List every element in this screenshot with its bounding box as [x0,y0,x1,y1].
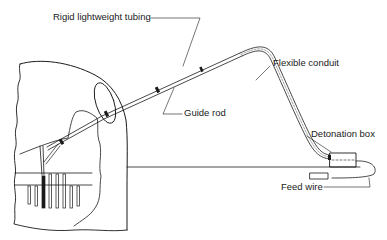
inner-cutaway [20,111,101,226]
fuel-rods [28,174,80,208]
label-flexible-conduit: Flexible conduit [273,58,339,68]
leader-lines [151,18,370,187]
diagram-canvas [0,0,387,240]
feed-wire [310,161,375,179]
label-feed-wire: Feed wire [281,182,323,192]
structure-wall [14,61,127,230]
detonation-box [328,153,356,167]
fuel-deck [15,173,92,185]
label-guide-rod: Guide rod [184,108,226,118]
label-rigid-lightweight-tubing: Rigid lightweight tubing [53,12,151,22]
label-detonation-box: Detonation box [311,129,375,139]
